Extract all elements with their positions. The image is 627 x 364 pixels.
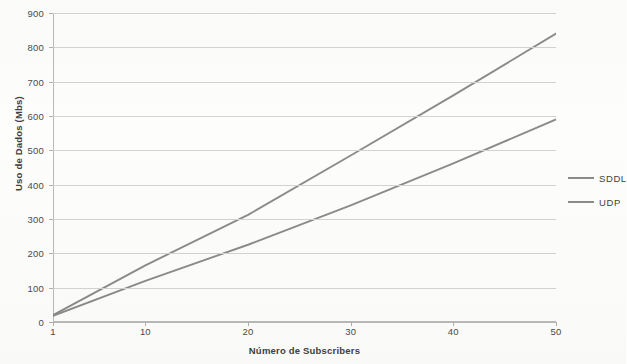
y-axis-tick-label: 400 bbox=[28, 179, 44, 190]
gridline bbox=[53, 13, 556, 14]
x-axis-tick-label: 40 bbox=[448, 326, 459, 337]
x-axis-tick-labels: 11020304050 bbox=[53, 326, 556, 344]
legend-label: SDDL bbox=[599, 173, 627, 184]
y-axis-tick-mark bbox=[49, 150, 53, 151]
gridline bbox=[53, 47, 556, 48]
y-axis-tick-label: 0 bbox=[39, 317, 44, 328]
y-axis-tick-labels: 0100200300400500600700800900 bbox=[0, 0, 50, 364]
legend-item[interactable]: SDDL bbox=[568, 170, 627, 186]
y-axis-tick-label: 900 bbox=[28, 8, 44, 19]
gridline bbox=[53, 219, 556, 220]
x-axis-title: Número de Subscribers bbox=[53, 345, 556, 356]
gridline bbox=[53, 288, 556, 289]
y-axis-tick-label: 300 bbox=[28, 214, 44, 225]
y-axis-tick-mark bbox=[49, 13, 53, 14]
x-axis-tick-label: 10 bbox=[140, 326, 151, 337]
legend-item[interactable]: UDP bbox=[568, 194, 627, 210]
y-axis-tick-mark bbox=[49, 219, 53, 220]
y-axis-tick-mark bbox=[49, 82, 53, 83]
y-axis-tick-label: 500 bbox=[28, 145, 44, 156]
series-line bbox=[53, 119, 556, 315]
x-axis-tick-label: 30 bbox=[345, 326, 356, 337]
y-axis-tick-label: 600 bbox=[28, 111, 44, 122]
x-axis-tick-label: 1 bbox=[50, 326, 55, 337]
gridline bbox=[53, 253, 556, 254]
series-line bbox=[53, 34, 556, 316]
y-axis-tick-mark bbox=[49, 47, 53, 48]
y-axis-tick-label: 800 bbox=[28, 42, 44, 53]
chart-legend: SDDLUDP bbox=[568, 170, 627, 218]
legend-color-swatch bbox=[568, 177, 594, 179]
y-axis-tick-label: 700 bbox=[28, 76, 44, 87]
gridline bbox=[53, 150, 556, 151]
y-axis-tick-mark bbox=[49, 116, 53, 117]
x-axis-tick-label: 50 bbox=[551, 326, 562, 337]
gridline bbox=[53, 322, 556, 323]
y-axis-tick-label: 200 bbox=[28, 248, 44, 259]
y-axis-tick-label: 100 bbox=[28, 282, 44, 293]
legend-label: UDP bbox=[599, 197, 621, 208]
x-axis-tick-label: 20 bbox=[243, 326, 254, 337]
plot-area bbox=[53, 13, 556, 322]
y-axis-tick-mark bbox=[49, 253, 53, 254]
gridline bbox=[53, 116, 556, 117]
gridline bbox=[53, 82, 556, 83]
y-axis-tick-mark bbox=[49, 288, 53, 289]
gridline bbox=[53, 185, 556, 186]
series-layer bbox=[53, 13, 556, 322]
legend-color-swatch bbox=[568, 201, 594, 203]
y-axis-tick-mark bbox=[49, 185, 53, 186]
